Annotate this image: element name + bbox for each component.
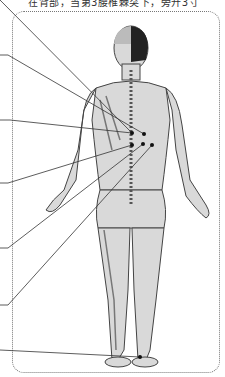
right-foot [132,357,158,367]
hair [131,26,148,62]
right-leg [132,228,164,360]
acupoint-marker [150,143,154,147]
acupoint-figure [0,0,225,377]
skull-overlay [114,26,131,44]
left-foot [105,357,131,367]
acupoint-marker [138,355,142,359]
acupoint-marker [130,143,134,147]
acupoint-marker [130,131,134,135]
left-arm [46,88,96,212]
body-silhouette [46,26,209,367]
right-arm [166,88,209,218]
acupoint-marker [141,142,145,146]
acupoint-marker [142,132,146,136]
left-leg [98,228,130,360]
